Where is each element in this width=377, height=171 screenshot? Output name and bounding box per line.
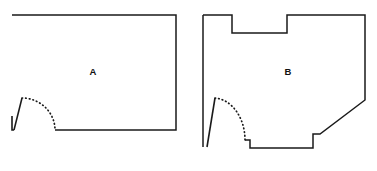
shape-a-label: A (89, 66, 96, 77)
shape-a-group: A (12, 15, 176, 130)
floor-plan-figure: A B (0, 0, 377, 171)
shape-a-door-swing-arc (22, 98, 55, 130)
shape-b-outline (203, 15, 365, 148)
shape-b-label-text: B (284, 66, 291, 77)
shape-a-door-jamb (12, 116, 14, 130)
shape-b-door-leaf (207, 98, 215, 147)
shape-a-door-leaf (14, 98, 22, 130)
shape-b-label: B (284, 66, 291, 77)
shape-b-door-swing-arc (215, 98, 245, 140)
shape-a-label-text: A (89, 66, 96, 77)
floor-plan-canvas: A B (0, 0, 377, 171)
shape-b-group: B (203, 15, 365, 148)
